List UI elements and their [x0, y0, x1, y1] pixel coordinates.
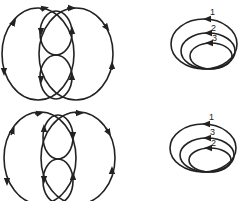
upper-inner-loop: [40, 11, 72, 55]
lower-inner-loop: [43, 159, 73, 201]
upper-inner-loop: [43, 115, 73, 159]
top-right-nested-ellipses: [171, 19, 237, 69]
label-1: 1: [210, 7, 215, 17]
ellipse-3: [190, 43, 232, 69]
arrow-icon: [40, 8, 45, 9]
label-3: 3: [212, 33, 217, 43]
bottom-right-nested-ellipses: [170, 124, 236, 172]
label-1: 1: [209, 112, 214, 122]
arrow-icon: [35, 113, 40, 114]
left-loop: [2, 8, 74, 100]
ellipse-2: [189, 148, 231, 172]
bottom-left-loops: [4, 112, 115, 201]
label-2: 2: [211, 23, 216, 33]
top-left-loops: [2, 8, 113, 100]
diagram-canvas: 1 2 3 1 3 2: [0, 0, 247, 201]
label-3: 3: [210, 127, 215, 137]
label-2: 2: [211, 138, 216, 148]
